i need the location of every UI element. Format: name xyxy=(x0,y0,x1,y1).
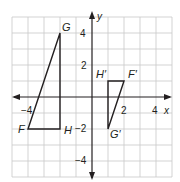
coordinate-plane: −4 2 4 x 4 2 −2 −4 y F G H F′ G′ H′ xyxy=(0,0,180,182)
vertex-label-g-prime: G′ xyxy=(110,128,122,140)
y-tick-label: −4 xyxy=(75,155,87,166)
y-axis-label: y xyxy=(96,11,103,22)
y-axis-up-arrow-icon xyxy=(89,11,95,19)
y-tick-label: −2 xyxy=(75,123,87,134)
vertex-label-h-prime: H′ xyxy=(96,68,107,80)
x-axis-left-arrow-icon xyxy=(12,94,20,100)
vertex-label-g: G xyxy=(62,21,71,33)
y-axis-down-arrow-icon xyxy=(89,172,95,180)
y-tick-label: 2 xyxy=(81,60,87,71)
vertex-label-h: H xyxy=(64,124,72,136)
vertex-label-f-prime: F′ xyxy=(128,68,138,80)
axes xyxy=(12,11,172,180)
y-tick-label: 4 xyxy=(80,28,86,39)
x-tick-label: 4 xyxy=(152,105,158,116)
x-tick-label: 2 xyxy=(121,105,127,116)
x-axis-right-arrow-icon xyxy=(164,94,172,100)
x-tick-label: −4 xyxy=(21,105,33,116)
x-axis-label: x xyxy=(163,105,170,116)
